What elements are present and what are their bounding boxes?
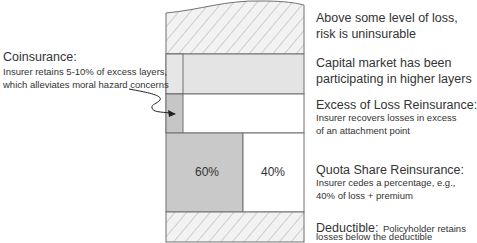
coinsurance-desc-line2: which alleviates moral hazard concerns (3, 79, 169, 92)
quota-share-desc-line2: 40% of loss + premium (316, 190, 413, 203)
deductible-desc-line2: losses below the deductible (316, 231, 432, 243)
coinsurance-title: Coinsurance: (3, 50, 77, 64)
excess-of-loss-layer (166, 94, 304, 133)
coinsurance-desc-line1: Insurer retains 5-10% of excess layers, (3, 66, 167, 79)
coinsurance-arrow-icon (129, 89, 171, 113)
deductible-layer (166, 212, 304, 242)
uninsurable-layer (166, 1, 304, 54)
capital-market-label-line2: participating in higher layers (316, 72, 472, 86)
retained-pct-label: 60% (195, 165, 219, 179)
uninsurable-label-line1: Above some level of loss, (316, 11, 458, 25)
excess-of-loss-desc-line1: Insurer recovers losses in excess (316, 112, 456, 125)
ceded-pct-label: 40% (261, 165, 285, 179)
capital-market-layer (166, 54, 304, 94)
uninsurable-label-line2: risk is uninsurable (316, 27, 416, 41)
excess-of-loss-title: Excess of Loss Reinsurance: (316, 98, 477, 112)
quota-share-desc-line1: Insurer cedes a percentage, e.g., (316, 177, 455, 190)
quota-share-title: Quota Share Reinsurance: (316, 163, 464, 177)
excess-of-loss-desc-line2: of an attachment point (316, 125, 410, 138)
capital-market-label-line1: Capital market has been (316, 56, 452, 70)
